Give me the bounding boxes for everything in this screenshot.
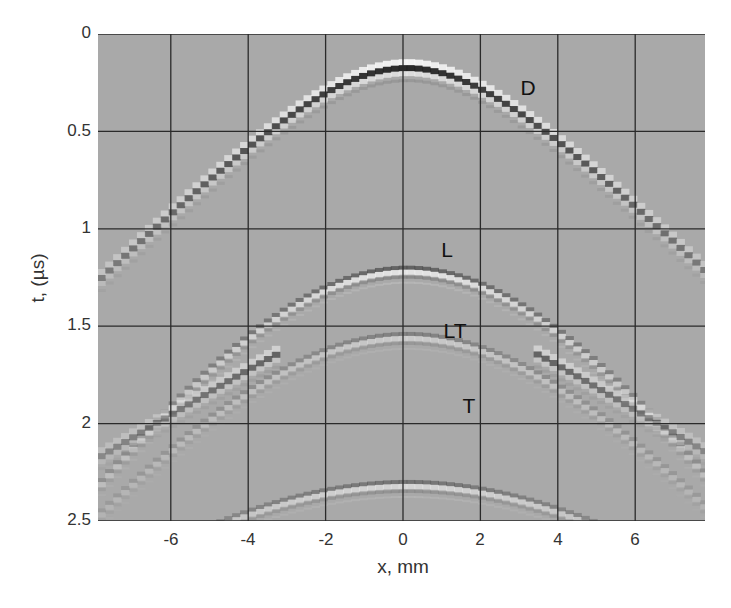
y-tick-2: 2	[82, 413, 91, 433]
x-tick-2: 2	[475, 530, 484, 550]
y-tick-1: 1	[82, 218, 91, 238]
annotation-lt: LT	[444, 319, 467, 343]
annotation-d: D	[520, 76, 535, 100]
y-tick-1.5: 1.5	[67, 315, 91, 335]
annotation-l: L	[441, 238, 453, 262]
x-tick-4: 4	[553, 530, 562, 550]
y-tick-2.5: 2.5	[67, 510, 91, 530]
annotation-t: T	[463, 394, 476, 418]
y-axis-label: t, (µs)	[27, 254, 49, 303]
plot-area	[0, 0, 731, 608]
y-tick-0.5: 0.5	[67, 121, 91, 141]
x-tick-0: 0	[398, 530, 407, 550]
x-axis-label: x, mm	[377, 556, 429, 578]
y-tick-0: 0	[82, 23, 91, 43]
x-tick-neg6: -6	[163, 530, 178, 550]
x-tick-6: 6	[630, 530, 639, 550]
bscan-figure: 0 0.5 1 1.5 2 2.5 -6 -4 -2 0 2 4 6 x, mm…	[0, 0, 731, 608]
x-tick-neg4: -4	[240, 530, 255, 550]
x-tick-neg2: -2	[318, 530, 333, 550]
